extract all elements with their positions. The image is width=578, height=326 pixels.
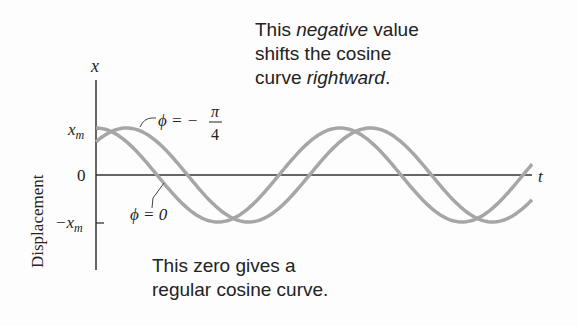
phi-zero-label: ϕ = 0 xyxy=(130,205,168,224)
svg-text:π: π xyxy=(211,103,220,120)
svg-text:−xm: −xm xyxy=(55,213,83,235)
displacement-label: Displacement xyxy=(28,174,47,268)
y-axis-label: x xyxy=(90,56,99,76)
phase-constant-diagram: x t Displacement xm 0 −xm ϕ = − π 4 ϕ = … xyxy=(0,0,578,326)
tick-zero: 0 xyxy=(77,166,86,185)
svg-text:4: 4 xyxy=(211,126,219,143)
svg-text:xm: xm xyxy=(67,120,85,142)
note-zero-phase: This zero gives a regular cosine curve. xyxy=(152,254,328,302)
note-negative-shift: This negative value shifts the cosine cu… xyxy=(255,18,419,90)
t-axis-label: t xyxy=(538,167,544,186)
phi-shift-label: ϕ = − xyxy=(158,111,198,130)
